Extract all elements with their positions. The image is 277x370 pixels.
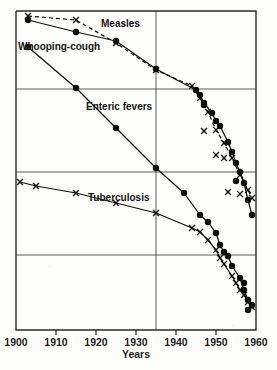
series-label-tuberculosis: Tuberculosis bbox=[88, 192, 150, 203]
data-point-dot bbox=[193, 87, 199, 93]
data-point-dot bbox=[197, 92, 203, 98]
plot-background bbox=[16, 11, 256, 330]
chart-figure: 1900191019201930194019501960 Years Measl… bbox=[0, 0, 277, 370]
data-point-dot bbox=[241, 180, 247, 186]
x-axis-tick-labels: 1900191019201930194019501960 bbox=[4, 336, 268, 348]
outlier-point-dot bbox=[241, 280, 247, 286]
data-point-dot bbox=[233, 160, 239, 166]
x-tick-label-1930: 1930 bbox=[124, 336, 148, 348]
data-point-dot bbox=[197, 212, 203, 218]
data-point-dot bbox=[153, 66, 159, 72]
data-point-dot bbox=[205, 219, 211, 225]
data-point-dot bbox=[209, 110, 215, 116]
x-tick-label-1940: 1940 bbox=[164, 336, 188, 348]
x-tick-label-1910: 1910 bbox=[44, 336, 68, 348]
data-point-dot bbox=[113, 125, 119, 131]
x-tick-label-1960: 1960 bbox=[244, 336, 268, 348]
outlier-point-dot bbox=[233, 178, 239, 184]
x-tick-label-1900: 1900 bbox=[4, 336, 28, 348]
outlier-point-dot bbox=[201, 102, 207, 108]
data-point-dot bbox=[225, 139, 231, 145]
series-label-enteric-fevers: Enteric fevers bbox=[86, 101, 153, 112]
data-point-dot bbox=[113, 38, 119, 44]
data-point-dot bbox=[153, 165, 159, 171]
data-point-dot bbox=[181, 190, 187, 196]
data-point-dot bbox=[237, 275, 243, 281]
data-point-dot bbox=[229, 149, 235, 155]
data-point-dot bbox=[229, 263, 235, 269]
x-axis-title: Years bbox=[122, 348, 150, 360]
data-point-dot bbox=[217, 242, 223, 248]
data-point-dot bbox=[73, 85, 79, 91]
data-point-dot bbox=[225, 253, 231, 259]
data-point-dot bbox=[237, 169, 243, 175]
mortality-decline-chart: 1900191019201930194019501960 Years Measl… bbox=[0, 0, 277, 370]
data-point-dot bbox=[73, 29, 79, 35]
data-point-dot bbox=[245, 197, 251, 203]
data-point-dot bbox=[25, 17, 31, 23]
series-label-whooping-cough: Whooping-cough bbox=[18, 41, 100, 52]
data-point-dot bbox=[213, 230, 219, 236]
data-point-dot bbox=[217, 123, 223, 129]
data-point-dot bbox=[213, 118, 219, 124]
series-label-measles: Measles bbox=[101, 18, 140, 29]
x-tick-label-1920: 1920 bbox=[84, 336, 108, 348]
data-point-dot bbox=[249, 212, 255, 218]
x-axis-ticks bbox=[56, 330, 216, 335]
outlier-point-dot bbox=[245, 307, 251, 313]
x-tick-label-1950: 1950 bbox=[204, 336, 228, 348]
